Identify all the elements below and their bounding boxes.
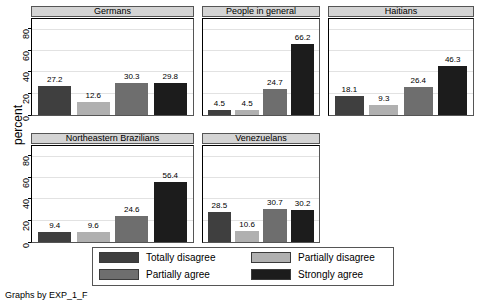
y-tick-label: 0: [12, 111, 26, 121]
legend-item: Totally disagree: [99, 252, 215, 263]
bar-strongly-agree: [291, 210, 314, 242]
legend: Totally disagreePartially disagreePartia…: [92, 247, 394, 286]
panel-title-text: Northeastern Brazilians: [66, 134, 160, 143]
panel-title-text: Germans: [94, 7, 131, 16]
panel-northeastern-brazilians: Northeastern Brazilians9.49.624.656.4: [31, 133, 194, 243]
bar-value-label: 9.6: [88, 222, 99, 230]
plot-area: 28.510.630.730.2: [202, 145, 320, 243]
bar-partially-disagree: [77, 232, 110, 242]
plot-inner: 28.510.630.730.2: [203, 146, 319, 242]
y-tick-label-text: 80: [21, 29, 31, 39]
bar-item: 26.4: [404, 19, 433, 115]
plot-inner: 18.19.326.446.3: [329, 19, 473, 115]
y-tick-label-text: 40: [21, 199, 31, 209]
bar-value-label: 46.3: [445, 56, 461, 64]
bar-value-label: 24.7: [267, 79, 283, 87]
panel-haitians: Haitians18.19.326.446.3: [328, 6, 474, 116]
y-tick-label: 80: [12, 24, 26, 34]
bar-totally-disagree: [208, 110, 231, 115]
legend-swatch: [99, 252, 139, 263]
bar-item: 30.3: [115, 19, 148, 115]
legend-item: Partially agree: [99, 269, 210, 280]
bar-item: 56.4: [154, 146, 187, 242]
bar-strongly-agree: [154, 182, 187, 242]
panel-title: Northeastern Brazilians: [31, 133, 194, 144]
bar-value-label: 26.4: [410, 77, 426, 85]
bar-item: 30.2: [291, 146, 314, 242]
y-tick-label-text: 20: [21, 221, 31, 231]
legend-swatch: [99, 269, 139, 280]
bar-value-label: 28.5: [212, 202, 228, 210]
bar-value-label: 12.6: [85, 92, 101, 100]
bar-partially-disagree: [77, 102, 110, 115]
bar-partially-agree: [263, 89, 286, 115]
legend-label: Partially disagree: [298, 253, 375, 263]
plot-inner: 4.54.524.766.2: [203, 19, 319, 115]
bar-value-label: 56.4: [162, 172, 178, 180]
bar-partially-agree: [115, 83, 148, 115]
bar-item: 66.2: [291, 19, 314, 115]
bar-item: 46.3: [438, 19, 467, 115]
panel-title: Germans: [31, 6, 194, 17]
bar-value-label: 30.2: [295, 200, 311, 208]
bar-item: 24.6: [115, 146, 148, 242]
chart-figure: percent Germans27.212.630.329.8020406080…: [0, 0, 479, 307]
bar-item: 9.3: [369, 19, 398, 115]
bar-value-label: 29.8: [162, 73, 178, 81]
y-tick-label-text: 40: [21, 72, 31, 82]
y-tick-label: 60: [12, 46, 26, 56]
plot-area: 18.19.326.446.3: [328, 18, 474, 116]
y-axis: 020406080: [5, 18, 31, 116]
y-tick-label-text: 0: [21, 116, 31, 121]
bar-item: 29.8: [154, 19, 187, 115]
bar-totally-disagree: [38, 232, 71, 242]
panel-title-text: Venezuelans: [235, 134, 287, 143]
legend-item: Strongly agree: [251, 269, 363, 280]
bar-group: 9.49.624.656.4: [38, 146, 186, 242]
bar-item: 10.6: [235, 146, 258, 242]
bar-item: 27.2: [38, 19, 71, 115]
y-tick-label: 40: [12, 67, 26, 77]
bar-item: 4.5: [235, 19, 258, 115]
bar-group: 4.54.524.766.2: [208, 19, 315, 115]
legend-label: Partially agree: [146, 270, 210, 280]
plot-area: 4.54.524.766.2: [202, 18, 320, 116]
bar-item: 4.5: [208, 19, 231, 115]
legend-label: Totally disagree: [146, 253, 215, 263]
bar-totally-disagree: [38, 86, 71, 115]
legend-item: Partially disagree: [251, 252, 375, 263]
bar-partially-agree: [404, 87, 433, 115]
plot-inner: 27.212.630.329.8: [32, 19, 193, 115]
bar-partially-disagree: [235, 231, 258, 242]
bar-item: 24.7: [263, 19, 286, 115]
y-tick-label-text: 20: [21, 94, 31, 104]
y-tick-label-text: 60: [21, 178, 31, 188]
bar-value-label: 30.7: [267, 199, 283, 207]
legend-label: Strongly agree: [298, 270, 363, 280]
panel-title-text: Haitians: [385, 7, 418, 16]
panel-people-in-general: People in general4.54.524.766.2: [202, 6, 320, 116]
bar-partially-agree: [263, 209, 286, 242]
bar-value-label: 66.2: [295, 34, 311, 42]
y-tick-label-text: 60: [21, 51, 31, 61]
panel-germans: Germans27.212.630.329.8: [31, 6, 194, 116]
y-tick-label: 20: [12, 89, 26, 99]
bar-value-label: 27.2: [47, 76, 63, 84]
bar-totally-disagree: [335, 96, 364, 115]
bar-value-label: 10.6: [239, 221, 255, 229]
y-tick-label: 0: [12, 238, 26, 248]
plot-area: 9.49.624.656.4: [31, 145, 194, 243]
y-tick-label-text: 80: [21, 156, 31, 166]
y-tick-label: 60: [12, 173, 26, 183]
y-tick-label: 40: [12, 194, 26, 204]
bar-value-label: 4.5: [242, 100, 253, 108]
y-tick-label: 80: [12, 151, 26, 161]
bar-item: 9.4: [38, 146, 71, 242]
bar-item: 28.5: [208, 146, 231, 242]
bar-strongly-agree: [291, 44, 314, 115]
bar-item: 30.7: [263, 146, 286, 242]
bar-item: 12.6: [77, 19, 110, 115]
panel-title-text: People in general: [226, 7, 296, 16]
bar-partially-disagree: [235, 110, 258, 115]
bar-value-label: 24.6: [124, 206, 140, 214]
